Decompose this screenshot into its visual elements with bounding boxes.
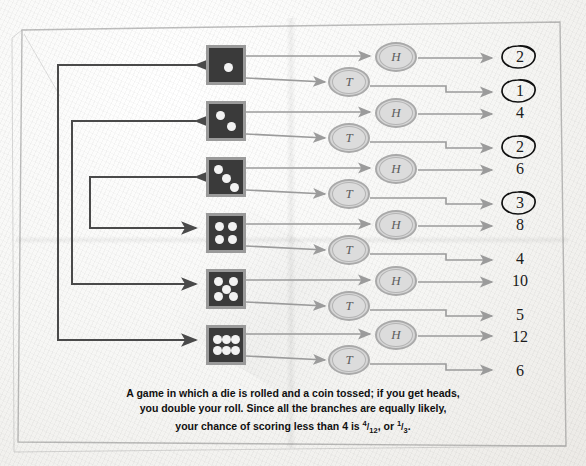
coin-face-label: H <box>375 98 417 128</box>
die-pip <box>215 222 224 231</box>
result-4-heads: 8 <box>500 216 540 234</box>
coin-tails-row-4[interactable]: T <box>328 235 370 265</box>
die-3[interactable] <box>206 157 246 197</box>
die-pip <box>214 165 223 174</box>
coin-face-label: T <box>328 345 370 375</box>
die-pip <box>228 235 237 244</box>
frac1-denominator: 12 <box>369 426 377 435</box>
coin-heads-row-1[interactable]: H <box>375 42 417 72</box>
die-pip <box>227 122 236 131</box>
die-pip <box>231 346 240 355</box>
fraction-four-twelfths: 4/12 <box>363 422 378 432</box>
coin-tails-row-5[interactable]: T <box>328 291 370 321</box>
die-pip <box>215 235 224 244</box>
coin-heads-row-3[interactable]: H <box>375 154 417 184</box>
die-5[interactable] <box>206 269 246 309</box>
coin-face-label: H <box>375 320 417 350</box>
die-pip <box>213 346 222 355</box>
die-pip <box>228 222 237 231</box>
coin-face-label: T <box>328 291 370 321</box>
caption-suffix: . <box>408 420 411 432</box>
die-pip <box>222 285 231 294</box>
coin-face-label: H <box>375 210 417 240</box>
result-3-tails: 3 <box>500 194 540 212</box>
coin-heads-row-6[interactable]: H <box>375 320 417 350</box>
source-brackets <box>58 65 196 340</box>
result-3-heads: 6 <box>500 160 540 178</box>
paper-page: H T H T H T H T H <box>0 0 586 466</box>
coin-heads-row-4[interactable]: H <box>375 210 417 240</box>
caption-line-1: A game in which a die is rolled and a co… <box>0 386 586 401</box>
die-pip <box>229 277 238 286</box>
coin-face-label: H <box>375 154 417 184</box>
die-2[interactable] <box>206 101 246 141</box>
die-pip <box>229 292 238 301</box>
result-2-heads: 4 <box>500 104 540 122</box>
die-pip <box>230 183 239 192</box>
result-4-tails: 4 <box>500 250 540 268</box>
die-pip <box>222 174 231 183</box>
outcome-flow-lines <box>246 56 492 370</box>
result-5-tails: 5 <box>500 306 540 324</box>
caption-frac-mid: , or <box>378 420 397 432</box>
coin-heads-row-5[interactable]: H <box>375 266 417 296</box>
coin-face-label: H <box>375 42 417 72</box>
caption-line-2: you double your roll. Since all the bran… <box>0 401 586 416</box>
frac1-numerator: 4 <box>363 419 367 428</box>
die-pip <box>213 335 222 344</box>
coin-tails-row-6[interactable]: T <box>328 345 370 375</box>
caption-line-3-prefix: your chance of scoring less than 4 is <box>175 420 362 432</box>
coin-face-label: T <box>328 123 370 153</box>
coin-face-label: H <box>375 266 417 296</box>
die-pip <box>214 277 223 286</box>
coin-tails-row-2[interactable]: T <box>328 123 370 153</box>
result-1-tails: 1 <box>500 82 540 100</box>
result-1-heads: 2 <box>500 48 540 66</box>
frac2-numerator: 1 <box>397 419 401 428</box>
coin-face-label: T <box>328 179 370 209</box>
die-pip <box>224 63 233 72</box>
caption-line-3: your chance of scoring less than 4 is 4/… <box>0 416 586 438</box>
coin-face-label: T <box>328 235 370 265</box>
figure-caption: A game in which a die is rolled and a co… <box>0 386 586 438</box>
die-pip <box>222 346 231 355</box>
die-pip <box>222 335 231 344</box>
coin-heads-row-2[interactable]: H <box>375 98 417 128</box>
die-4[interactable] <box>206 213 246 253</box>
die-pip <box>231 335 240 344</box>
result-6-heads: 12 <box>500 328 540 346</box>
result-5-heads: 10 <box>500 272 540 290</box>
die-6[interactable] <box>206 325 246 365</box>
result-6-tails: 6 <box>500 362 540 380</box>
die-pip <box>214 292 223 301</box>
die-1[interactable] <box>206 45 246 85</box>
coin-face-label: T <box>328 67 370 97</box>
result-2-tails: 2 <box>500 138 540 156</box>
coin-tails-row-1[interactable]: T <box>328 67 370 97</box>
coin-tails-row-3[interactable]: T <box>328 179 370 209</box>
die-pip <box>216 111 225 120</box>
fraction-one-third: 1/3 <box>397 422 408 432</box>
